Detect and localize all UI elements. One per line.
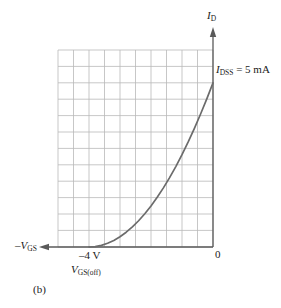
x-axis-label: –VGS <box>15 240 37 253</box>
idss-annotation: IDSS = 5 mA <box>216 64 270 77</box>
origin-label: 0 <box>215 249 221 260</box>
panel-label: (b) <box>33 284 46 295</box>
vgs-off-name-label: VGS(off) <box>71 264 101 277</box>
jfet-transfer-characteristic-figure <box>0 0 281 308</box>
vgs-off-value-label: –4 V <box>79 250 101 261</box>
y-axis-label: ID <box>207 10 216 23</box>
chart-grid <box>58 50 213 247</box>
x-axis <box>39 244 213 250</box>
